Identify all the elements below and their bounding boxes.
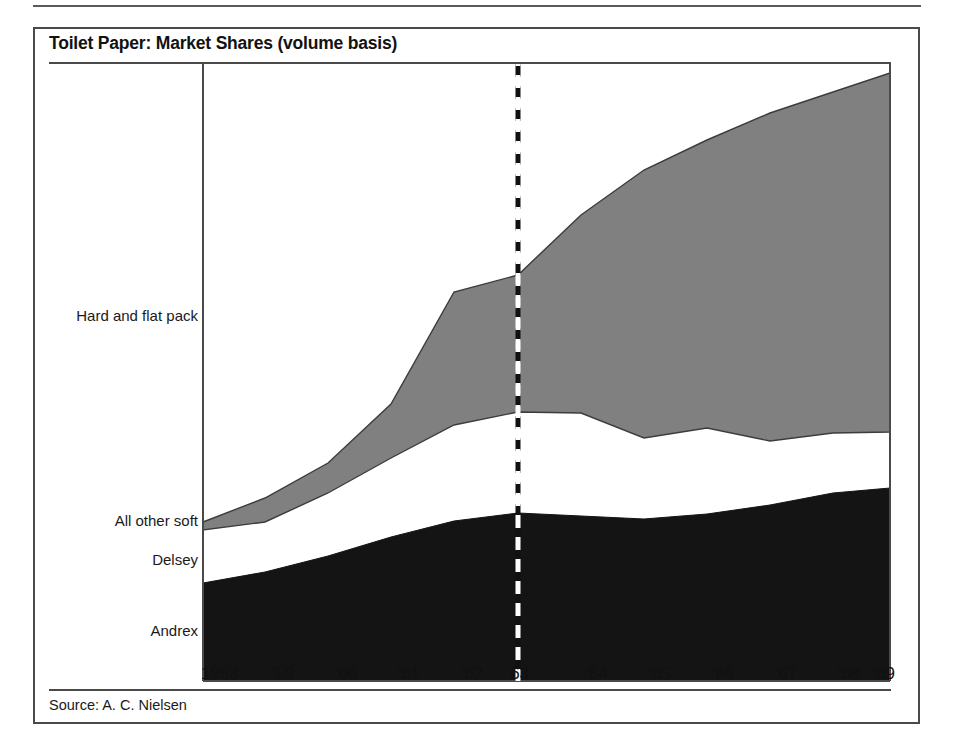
series-label-delsey: Delsey [152, 551, 198, 568]
page-canvas: Toilet Paper: Market Shares (volume basi… [0, 0, 955, 755]
x-axis-tick-60: '60 [335, 664, 357, 684]
source-divider [49, 689, 891, 691]
figure-frame [33, 27, 920, 724]
x-axis-tick-68: '68 [838, 664, 860, 684]
x-axis-tick-1958: 1958 [201, 664, 239, 684]
x-axis-tick-65: '65 [649, 664, 671, 684]
page-top-rule [33, 5, 921, 7]
x-axis-tick-64: '64 [586, 664, 608, 684]
x-axis-tick-61: '61 [398, 664, 420, 684]
x-axis-tick-69: '69 [873, 664, 895, 684]
x-axis-tick-63: '63 [507, 664, 529, 684]
x-axis-tick-67: '67 [775, 664, 797, 684]
page-title: Toilet Paper: Market Shares (volume basi… [49, 33, 397, 54]
x-axis-tick-59: '59 [272, 664, 294, 684]
title-divider [49, 62, 891, 64]
series-label-andrex: Andrex [150, 622, 198, 639]
x-axis-tick-66: '66 [712, 664, 734, 684]
series-label-hard-and-flat-pack: Hard and flat pack [76, 307, 198, 324]
x-axis-tick-62: '62 [461, 664, 483, 684]
source-note: Source: A. C. Nielsen [49, 697, 187, 713]
series-label-all-other-soft: All other soft [115, 512, 198, 529]
